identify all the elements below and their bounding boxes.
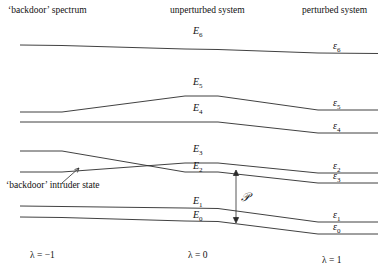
- energy-level-traces: [0, 0, 390, 277]
- level-label-eps5: ε5: [333, 97, 340, 111]
- axis-label-lambda-zero: λ = 0: [188, 250, 207, 260]
- level-correlation-diagram: ‘backdoor’ spectrum unperturbed system p…: [0, 0, 390, 277]
- level-label-E3: E3: [193, 143, 203, 157]
- level-label-E0: E0: [193, 209, 203, 223]
- axis-label-lambda-minus-one: λ = −1: [30, 250, 55, 260]
- level-label-eps2: ε3: [333, 170, 340, 184]
- level-label-E1: E1: [193, 195, 203, 209]
- perturbation-arrow-head-top: [233, 170, 238, 176]
- backdoor-intruder-caption: ‘backdoor’ intruder state: [6, 180, 100, 190]
- level-trace-E4: [20, 122, 378, 133]
- level-label-eps4: ε4: [333, 120, 340, 134]
- perturbation-symbol-label: 𝒫: [241, 190, 250, 204]
- level-label-E2: E2: [193, 160, 203, 174]
- level-label-E6: E6: [193, 25, 203, 39]
- level-label-E5: E5: [193, 76, 203, 90]
- level-trace-E6: [20, 45, 378, 54]
- perturbation-arrow-head-bottom: [233, 218, 238, 224]
- level-label-eps0: ε0: [333, 221, 340, 235]
- level-label-E4: E4: [193, 102, 203, 116]
- axis-label-lambda-one: λ = 1: [322, 255, 341, 265]
- level-label-eps6: ε6: [333, 40, 340, 54]
